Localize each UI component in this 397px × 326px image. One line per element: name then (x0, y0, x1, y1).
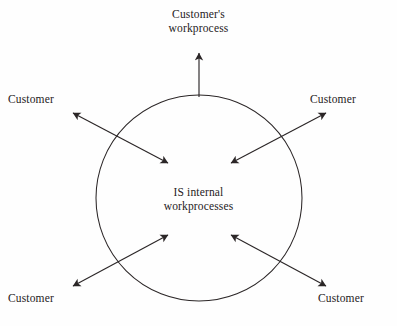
customer-label-top-right: Customer (310, 93, 390, 107)
diagram-graphics (0, 0, 397, 326)
customer-label-bottom-left: Customer (8, 292, 88, 306)
customers-workprocess-label-line2: workprocess (0, 22, 397, 36)
customer-label-bottom-right: Customer (318, 292, 397, 306)
arrow-top-left (73, 113, 168, 163)
customer-label-top-left: Customer (8, 93, 88, 107)
arrow-bottom-left (73, 235, 168, 286)
is-internal-workprocesses-label-line2: workprocesses (0, 200, 397, 214)
is-internal-workprocesses-label-line1: IS internal (0, 186, 397, 200)
customers-workprocess-label-line1: Customer's (0, 8, 397, 22)
is-internal-workprocesses-label: IS internal workprocesses (0, 186, 397, 213)
customers-workprocess-label: Customer's workprocess (0, 8, 397, 35)
diagram-canvas: Customer's workprocess IS internal workp… (0, 0, 397, 326)
arrow-bottom-right (231, 235, 326, 286)
arrow-top-right (231, 113, 326, 163)
